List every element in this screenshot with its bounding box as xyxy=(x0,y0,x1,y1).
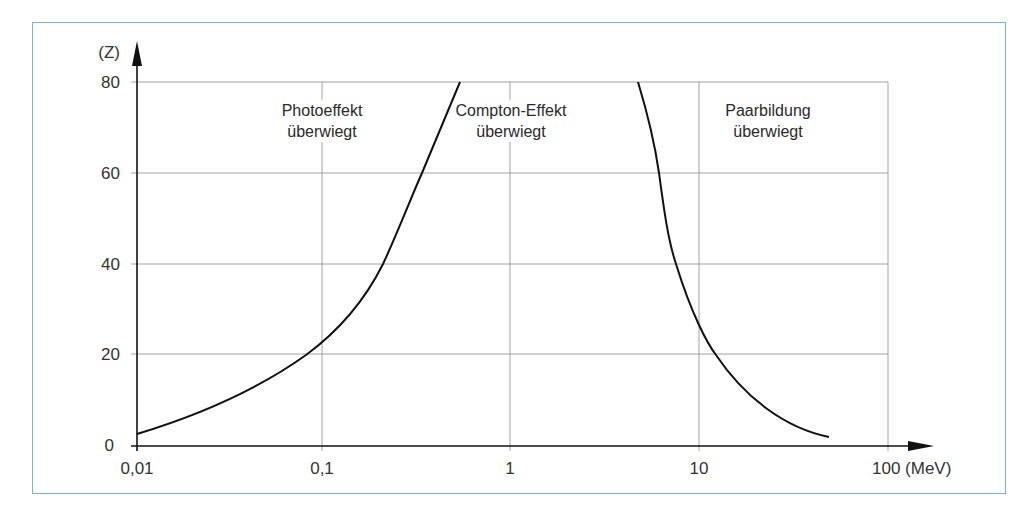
x-tick-0-1: 0,1 xyxy=(310,459,334,478)
y-axis-unit-label: (Z) xyxy=(98,43,120,62)
y-tick-20: 20 xyxy=(101,345,120,364)
y-tick-60: 60 xyxy=(101,164,120,183)
region-photo-line1: Photoeffekt xyxy=(282,102,363,119)
x-axis-arrow-icon xyxy=(908,441,934,451)
x-tick-100-mev: 100 (MeV) xyxy=(872,459,951,478)
y-axis-arrow-icon xyxy=(132,41,142,66)
x-tick-1: 1 xyxy=(505,459,514,478)
vertical-gridlines xyxy=(322,82,888,451)
region-label-compton: Compton-Effekt überwiegt xyxy=(452,100,568,142)
chart-plot: Photoeffekt überwiegt Compton-Effekt übe… xyxy=(0,0,1025,511)
x-tick-0-01: 0,01 xyxy=(120,459,153,478)
region-compton-line1: Compton-Effekt xyxy=(456,102,567,119)
region-label-photo: Photoeffekt überwiegt xyxy=(268,100,376,142)
region-pair-line1: Paarbildung xyxy=(725,102,810,119)
y-tick-0: 0 xyxy=(105,436,114,455)
y-tick-40: 40 xyxy=(101,255,120,274)
region-label-pair: Paarbildung überwiegt xyxy=(725,102,810,140)
region-pair-line2: überwiegt xyxy=(733,123,803,140)
region-photo-line2: überwiegt xyxy=(287,123,357,140)
x-tick-labels: 0,01 0,1 1 10 100 (MeV) xyxy=(120,459,951,478)
y-tick-80: 80 xyxy=(101,73,120,92)
region-compton-line2: überwiegt xyxy=(476,123,546,140)
x-tick-10: 10 xyxy=(690,459,709,478)
y-tick-labels: (Z) 80 60 40 20 0 xyxy=(98,43,120,455)
